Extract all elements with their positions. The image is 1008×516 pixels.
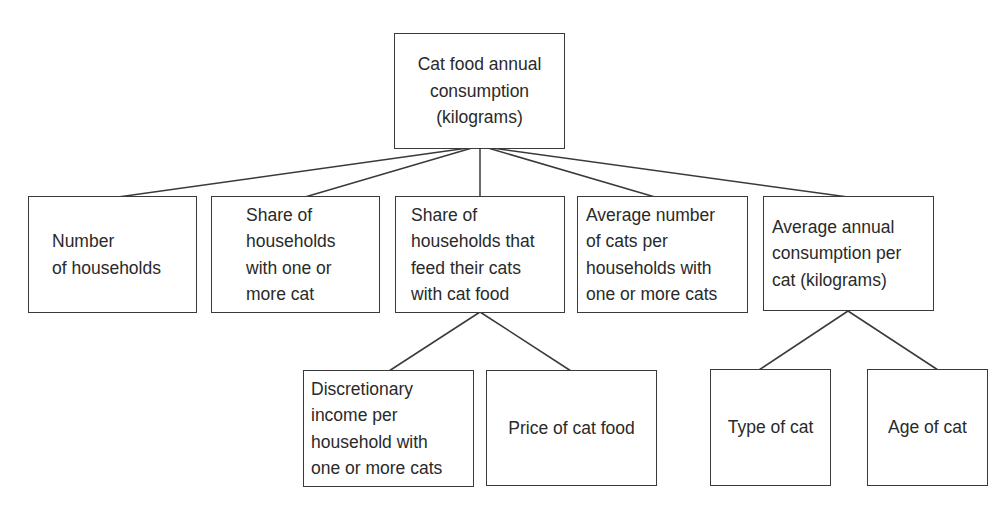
node-avg-consumption-per-cat: Average annual consumption per cat (kilo… [763,196,934,311]
node-label: Share of households that feed their cats… [411,202,535,308]
node-label: Age of cat [888,414,967,441]
node-share-households-with-cat: Share of households with one or more cat [211,196,380,313]
edge-feed-to-discretionary-income [389,312,480,371]
node-cat-food-annual-consumption: Cat food annual consumption (kilograms) [394,33,565,149]
edge-root-to-avg-cats-per-household [488,148,655,197]
node-label: Number of households [52,228,161,281]
node-discretionary-income: Discretionary income per household with … [303,370,474,487]
node-age-of-cat: Age of cat [867,369,988,486]
node-label: Average number of cats per households wi… [586,202,717,308]
node-label: Cat food annual consumption (kilograms) [418,51,542,131]
node-avg-cats-per-household: Average number of cats per households wi… [577,196,748,313]
node-label: Type of cat [728,414,814,441]
edge-consumption-to-age-of-cat [848,311,938,370]
edge-root-to-avg-consumption-per-cat [492,148,848,197]
node-type-of-cat: Type of cat [710,369,831,486]
node-share-households-feed-cat-food: Share of households that feed their cats… [395,196,565,313]
node-label: Share of households with one or more cat [246,202,336,308]
edge-feed-to-price-of-cat-food [480,312,571,371]
node-label: Price of cat food [508,415,634,442]
tree-diagram: Cat food annual consumption (kilograms) … [0,0,1008,516]
node-label: Discretionary income per household with … [311,376,442,482]
node-number-of-households: Number of households [28,196,197,313]
node-price-of-cat-food: Price of cat food [486,370,657,486]
edge-root-to-number-of-households [118,148,468,197]
node-label: Average annual consumption per cat (kilo… [772,214,901,294]
edge-consumption-to-type-of-cat [759,311,848,370]
edge-root-to-share-households-with-cat [305,148,472,197]
